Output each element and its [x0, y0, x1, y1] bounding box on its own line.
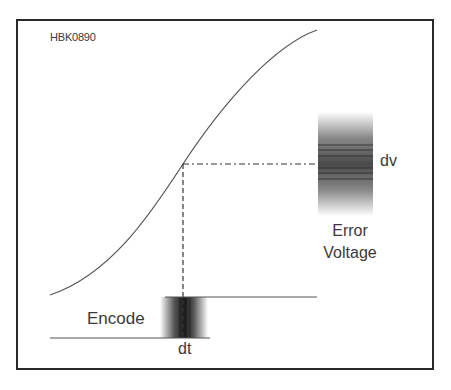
time-jitter-band: [160, 297, 208, 338]
error-caption-line2: Voltage: [315, 244, 385, 262]
encode-label: Encode: [87, 309, 145, 329]
error-voltage-band: [318, 112, 373, 216]
figure-id-label: HBK0890: [50, 31, 96, 43]
dt-label: dt: [178, 340, 191, 358]
transfer-curve-diagram: [0, 0, 451, 390]
error-caption-line1: Error: [325, 222, 375, 240]
dv-label: dv: [380, 152, 397, 170]
